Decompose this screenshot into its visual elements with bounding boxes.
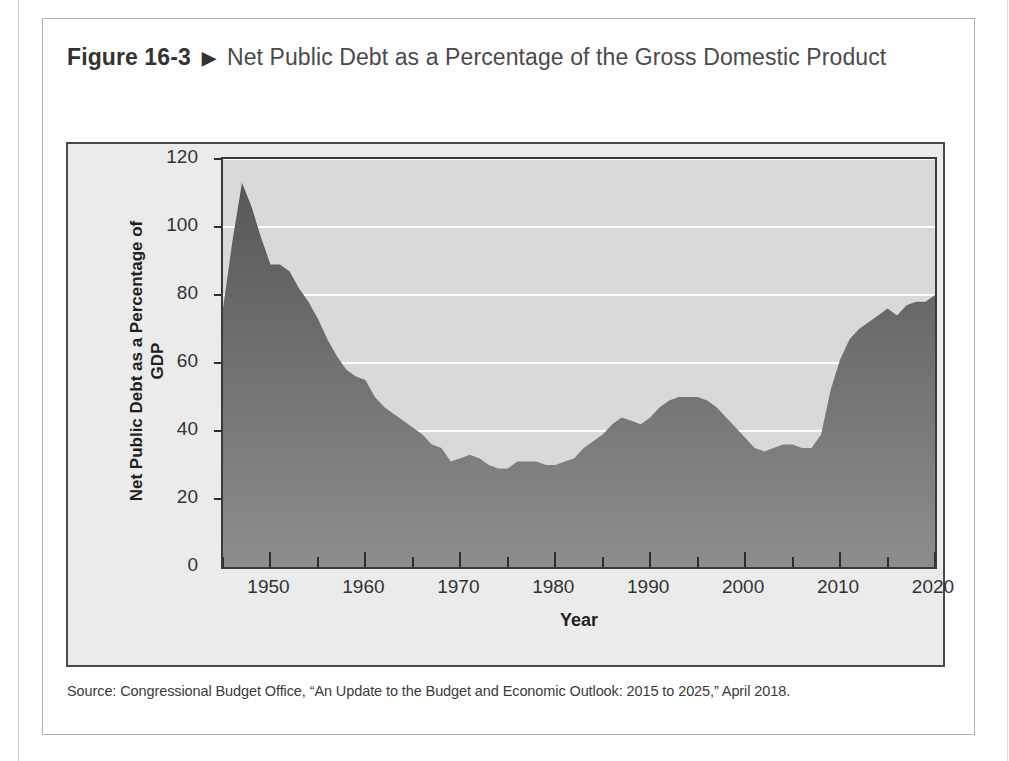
page-gutter-rule-left <box>18 0 19 761</box>
x-axis-tick <box>222 557 224 567</box>
chart-panel: Net Public Debt as a Percentage of GDP 0… <box>66 142 945 667</box>
x-axis-tick-label: 1990 <box>627 576 669 598</box>
x-axis-tick <box>934 552 936 567</box>
x-axis-tick-label: 2010 <box>817 576 859 598</box>
figure-title: Figure 16-3▶Net Public Debt as a Percent… <box>67 41 927 75</box>
y-axis-tick-label: 20 <box>177 486 198 508</box>
x-axis-tick <box>602 557 604 567</box>
area-fill <box>223 183 935 567</box>
figure-number: Figure 16-3 <box>67 44 191 70</box>
x-axis-tick-label: 1980 <box>532 576 574 598</box>
x-axis-title: Year <box>221 610 937 631</box>
y-axis-tick-label: 60 <box>177 350 198 372</box>
x-axis-tick <box>554 552 556 567</box>
x-axis-tick-label: 1950 <box>247 576 289 598</box>
y-axis-tick-label: 40 <box>177 418 198 440</box>
source-note: Source: Congressional Budget Office, “An… <box>67 683 947 699</box>
figure-container: Figure 16-3▶Net Public Debt as a Percent… <box>42 18 975 735</box>
x-axis-tick <box>459 552 461 567</box>
x-axis-tick <box>839 552 841 567</box>
x-axis-tick <box>507 557 509 567</box>
plot-inner <box>223 159 935 567</box>
x-axis-tick-label: 2000 <box>722 576 764 598</box>
y-axis-tick-label: 100 <box>166 214 198 236</box>
x-axis-tick <box>412 557 414 567</box>
y-axis-labels: 020406080100120 <box>156 157 214 569</box>
x-axis-tick <box>697 557 699 567</box>
x-axis-tick <box>744 552 746 567</box>
area-series-net-public-debt <box>223 159 935 567</box>
x-axis-tick-label: 2020 <box>912 576 954 598</box>
figure-caption: Net Public Debt as a Percentage of the G… <box>227 44 886 70</box>
x-axis-labels: 19501960197019801990200020102020 <box>221 576 937 606</box>
x-axis-tick <box>364 552 366 567</box>
x-axis-tick-label: 1970 <box>437 576 479 598</box>
x-axis-tick <box>269 552 271 567</box>
triangle-right-icon: ▶ <box>202 42 216 75</box>
page-gutter-rule-right <box>1007 0 1008 761</box>
y-axis-tick-label: 0 <box>187 554 198 576</box>
y-axis-tick-label: 80 <box>177 282 198 304</box>
y-axis-tick-label: 120 <box>166 146 198 168</box>
x-axis-tick <box>887 557 889 567</box>
figure-page: Figure 16-3▶Net Public Debt as a Percent… <box>0 0 1009 761</box>
x-axis-tick <box>317 557 319 567</box>
x-axis-tick-label: 1960 <box>342 576 384 598</box>
x-axis-tick <box>792 557 794 567</box>
plot-area <box>221 157 937 569</box>
x-axis-tick <box>649 552 651 567</box>
